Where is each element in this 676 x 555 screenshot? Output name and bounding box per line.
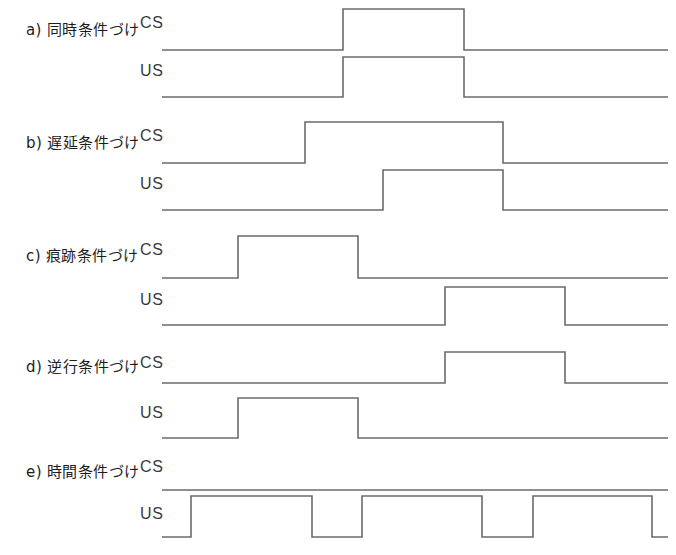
panel-e-cs-label: CS	[140, 458, 163, 476]
panel-b-us-label: US	[140, 175, 163, 193]
panel-c-label: c) 痕跡条件づけ	[26, 244, 138, 265]
panel-d-us-label: US	[140, 404, 163, 422]
conditioning-paradigms-figure: a) 同時条件づけ CS US b) 遅延条件づけ CS US c) 痕跡条件づ…	[0, 0, 676, 555]
panel-d-cs-label: CS	[140, 354, 163, 372]
waveform-b-cs	[162, 122, 668, 163]
panel-b-label: b) 遅延条件づけ	[26, 131, 140, 152]
panel-e-us-label: US	[140, 505, 163, 523]
waveform-c-us	[162, 287, 668, 325]
panel-a-label: a) 同時条件づけ	[26, 18, 139, 39]
waveform-c-cs	[162, 236, 668, 278]
waveform-d-cs	[162, 352, 668, 383]
waveform-b-us	[162, 170, 668, 210]
waveform-a-cs	[162, 9, 668, 50]
panel-d-label: d) 逆行条件づけ	[26, 355, 140, 376]
waveform-d-us	[162, 398, 668, 438]
panel-c-cs-label: CS	[140, 241, 163, 259]
panel-a-us-label: US	[140, 62, 163, 80]
waveform-a-us	[162, 57, 668, 97]
panel-b-cs-label: CS	[140, 127, 163, 145]
waveform-e-us	[162, 496, 668, 537]
panel-e-label: e) 時間条件づけ	[26, 460, 139, 481]
panel-a-cs-label: CS	[140, 14, 163, 32]
panel-c-us-label: US	[140, 291, 163, 309]
